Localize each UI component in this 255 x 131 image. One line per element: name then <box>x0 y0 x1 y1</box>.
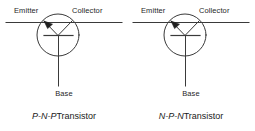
npn-caption: N-P-NTransistor <box>127 110 255 122</box>
pnp-transistor-symbol <box>0 0 128 100</box>
npn-type-text: N-P-N <box>159 111 184 121</box>
pnp-type-text: P-N-P <box>32 111 57 121</box>
pnp-transistor-diagram: Emitter Collector Base P-N-PTransistor <box>0 0 128 131</box>
npn-transistor-symbol <box>127 0 255 100</box>
npn-caption-suffix: Transistor <box>184 111 224 121</box>
npn-transistor-diagram: Emitter Collector Base N-P-NTransistor <box>127 0 255 131</box>
collector-segment <box>58 21 72 36</box>
npn-emitter-label: Emitter <box>141 6 165 15</box>
transistor-symbols-figure: Emitter Collector Base P-N-PTransistor E… <box>0 0 255 131</box>
pnp-emitter-label: Emitter <box>14 6 38 15</box>
pnp-collector-label: Collector <box>72 6 103 15</box>
pnp-base-label: Base <box>0 89 128 98</box>
pnp-caption-suffix: Transistor <box>56 111 96 121</box>
npn-collector-label: Collector <box>199 6 230 15</box>
npn-base-label: Base <box>127 89 255 98</box>
collector-segment <box>185 21 199 36</box>
pnp-caption: P-N-PTransistor <box>0 110 128 122</box>
